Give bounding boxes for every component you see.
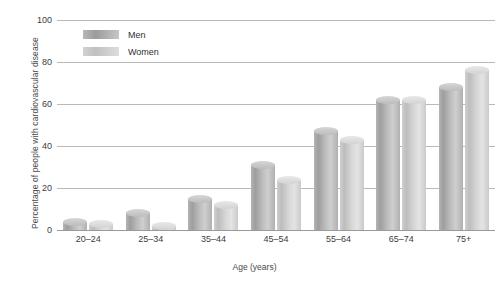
bar-body <box>251 165 275 230</box>
bar-women-55–64 <box>340 140 364 230</box>
y-tick-label-60: 60 <box>42 99 52 109</box>
bar-top-ellipse <box>376 96 400 104</box>
x-tick-label-65–74: 65–74 <box>370 234 433 250</box>
x-tick-label-45–54: 45–54 <box>245 234 308 250</box>
bar-body <box>439 87 463 230</box>
bar-women-65–74 <box>402 100 426 230</box>
bar-slot <box>251 20 275 230</box>
bar-group <box>432 20 495 230</box>
bar-men-65–74 <box>376 100 400 230</box>
bar-body <box>402 100 426 230</box>
bar-slot <box>465 20 489 230</box>
bar-women-45–54 <box>277 180 301 230</box>
y-tick-label-20: 20 <box>42 183 52 193</box>
bar-top-ellipse <box>152 222 176 230</box>
bar-top-ellipse <box>340 136 364 144</box>
bar-top-ellipse <box>188 195 212 203</box>
cardiovascular-disease-bar-chart: Percentage of people with cardiovascular… <box>0 0 501 284</box>
bar-top-ellipse <box>277 176 301 184</box>
legend-swatch-women <box>83 47 119 56</box>
bar-top-ellipse <box>214 201 238 209</box>
bar-slot <box>214 20 238 230</box>
x-tick-label-25–34: 25–34 <box>120 234 183 250</box>
legend-swatch-men <box>83 30 119 39</box>
bar-group <box>307 20 370 230</box>
x-tick-label-75+: 75+ <box>432 234 495 250</box>
bar-slot <box>314 20 338 230</box>
bar-men-25–34 <box>126 213 150 230</box>
bar-slot <box>188 20 212 230</box>
bar-slot <box>439 20 463 230</box>
bar-body <box>314 131 338 230</box>
bar-group <box>370 20 433 230</box>
x-tick-label-55–64: 55–64 <box>307 234 370 250</box>
x-axis-tick-labels: 20–2425–3435–4445–5455–6465–7475+ <box>57 234 495 250</box>
bar-body <box>188 199 212 231</box>
y-tick-label-0: 0 <box>47 225 52 235</box>
x-axis-title: Age (years) <box>0 262 501 272</box>
bar-body <box>277 180 301 230</box>
bar-women-25–34 <box>152 226 176 230</box>
bar-men-75+ <box>439 87 463 230</box>
legend-item-women: Women <box>83 45 159 58</box>
bar-top-ellipse <box>251 161 275 169</box>
gridline-0: 0 <box>57 230 495 231</box>
bar-body <box>465 70 489 230</box>
bar-body <box>340 140 364 230</box>
y-axis-title: Percentage of people with cardiovascular… <box>30 13 40 253</box>
bar-slot <box>376 20 400 230</box>
x-tick-label-20–24: 20–24 <box>57 234 120 250</box>
bar-top-ellipse <box>402 96 426 104</box>
y-tick-label-80: 80 <box>42 57 52 67</box>
bar-top-ellipse <box>63 218 87 226</box>
legend-label-women: Women <box>128 47 159 57</box>
bar-group <box>182 20 245 230</box>
bar-top-ellipse <box>89 220 113 228</box>
bar-men-35–44 <box>188 199 212 231</box>
bar-slot <box>402 20 426 230</box>
bar-men-20–24 <box>63 222 87 230</box>
bar-group <box>245 20 308 230</box>
x-tick-label-35–44: 35–44 <box>182 234 245 250</box>
bar-body <box>376 100 400 230</box>
bar-men-55–64 <box>314 131 338 230</box>
legend-label-men: Men <box>128 30 146 40</box>
x-axis-title-text: Age (years) <box>233 262 277 272</box>
bar-women-35–44 <box>214 205 238 230</box>
legend-item-men: Men <box>83 28 159 41</box>
bar-women-75+ <box>465 70 489 230</box>
bar-slot <box>340 20 364 230</box>
bar-men-45–54 <box>251 165 275 230</box>
legend: MenWomen <box>83 28 159 58</box>
y-tick-label-100: 100 <box>37 15 52 25</box>
y-tick-label-40: 40 <box>42 141 52 151</box>
bar-slot <box>277 20 301 230</box>
bar-women-20–24 <box>89 224 113 230</box>
